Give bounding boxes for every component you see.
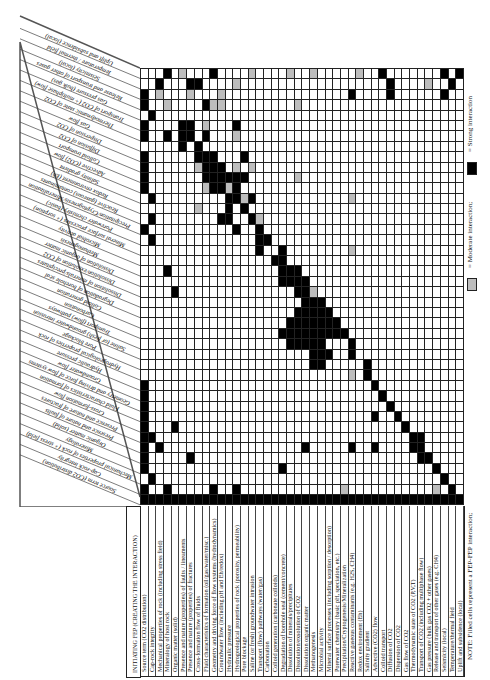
matrix-cell (341, 370, 348, 379)
matrix-cell (395, 329, 402, 338)
row-label: Dispersion of CO2 (395, 506, 403, 676)
matrix-cell (210, 152, 217, 161)
matrix-cell (179, 422, 186, 431)
matrix-cell (264, 152, 271, 161)
matrix-cell (356, 485, 363, 494)
matrix-cell (164, 412, 171, 421)
matrix-cell (364, 131, 371, 140)
matrix-cell (203, 308, 210, 317)
matrix-cell (433, 318, 440, 327)
matrix-cell (226, 474, 233, 483)
matrix-cell (379, 391, 386, 400)
row-label: Gas flow of CO2 (402, 506, 410, 676)
matrix-cell (341, 287, 348, 296)
matrix-cell (226, 183, 233, 192)
matrix-cell (241, 287, 248, 296)
matrix-cell (187, 163, 194, 172)
matrix-cell (226, 402, 233, 411)
matrix-cell (210, 194, 217, 203)
matrix-cell (387, 308, 394, 317)
matrix-cell (402, 69, 409, 78)
matrix-cell (179, 111, 186, 120)
matrix-cell (349, 391, 356, 400)
matrix-cell (264, 308, 271, 317)
matrix-cell (341, 495, 348, 504)
matrix-cell (233, 214, 240, 223)
matrix-cell (187, 121, 194, 130)
matrix-cell (372, 298, 379, 307)
row-label-text: Fluid characteristics of formation (oil/… (203, 537, 209, 672)
matrix-cell (364, 402, 371, 411)
matrix-cell (379, 90, 386, 99)
matrix-cell (233, 308, 240, 317)
matrix-cell (256, 246, 263, 255)
matrix-cell (179, 100, 186, 109)
matrix-cell (333, 204, 340, 213)
matrix-cell (410, 298, 417, 307)
matrix-cell (425, 214, 432, 223)
matrix-cell (210, 360, 217, 369)
matrix-cell (156, 111, 163, 120)
matrix-cell (295, 287, 302, 296)
matrix-cell (441, 256, 448, 265)
matrix-cell (395, 318, 402, 327)
matrix-cell (441, 485, 448, 494)
matrix-cell (156, 443, 163, 452)
matrix-cell (226, 266, 233, 275)
matrix-cell (349, 69, 356, 78)
matrix-cell (218, 266, 225, 275)
matrix-cell (418, 298, 425, 307)
matrix-cell (218, 183, 225, 192)
matrix-cell (333, 318, 340, 327)
matrix-cell (164, 370, 171, 379)
matrix-cell (210, 298, 217, 307)
matrix-cell (395, 266, 402, 275)
matrix-cell (149, 152, 156, 161)
matrix-cell (456, 69, 463, 78)
matrix-cell (349, 422, 356, 431)
matrix-cell (156, 391, 163, 400)
matrix-cell (341, 339, 348, 348)
matrix-cell (387, 131, 394, 140)
matrix-cell (172, 339, 179, 348)
matrix-cell (356, 142, 363, 151)
matrix-cell (418, 111, 425, 120)
matrix-cell (149, 329, 156, 338)
matrix-cell (203, 422, 210, 431)
matrix-cell (187, 370, 194, 379)
matrix-cell (179, 453, 186, 462)
matrix-cell (341, 360, 348, 369)
matrix-cell (318, 204, 325, 213)
matrix-cell (172, 360, 179, 369)
matrix-cell (179, 308, 186, 317)
matrix-cell (264, 443, 271, 452)
matrix-cell (456, 318, 463, 327)
matrix-cell (164, 402, 171, 411)
matrix-cell (410, 152, 417, 161)
matrix-cell (256, 443, 263, 452)
matrix-cell (249, 121, 256, 130)
matrix-cell (249, 339, 256, 348)
matrix-cell (449, 412, 456, 421)
matrix-cell (156, 329, 163, 338)
matrix-cell (195, 266, 202, 275)
matrix-cell (210, 464, 217, 473)
matrix-cell (302, 485, 309, 494)
matrix-cell (395, 225, 402, 234)
matrix-cell (233, 287, 240, 296)
matrix-cell (456, 277, 463, 286)
matrix-cell (195, 173, 202, 182)
matrix-cell (233, 111, 240, 120)
matrix-cell (226, 131, 233, 140)
matrix-cell (256, 111, 263, 120)
matrix-cell (272, 370, 279, 379)
matrix-cell (310, 402, 317, 411)
matrix-cell (387, 464, 394, 473)
matrix-cell (226, 391, 233, 400)
matrix-cell (256, 90, 263, 99)
matrix-cell (287, 266, 294, 275)
matrix-cell (441, 329, 448, 338)
matrix-cell (241, 464, 248, 473)
matrix-cell (356, 194, 363, 203)
matrix-cell (364, 422, 371, 431)
